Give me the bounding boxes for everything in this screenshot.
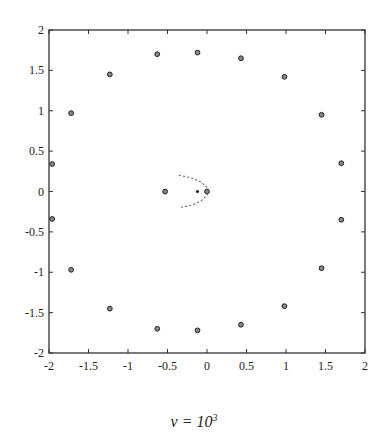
x-tick-label: 1.5 bbox=[318, 359, 333, 373]
x-tick-label: -1 bbox=[123, 359, 133, 373]
data-dot bbox=[196, 190, 199, 193]
data-point bbox=[339, 161, 344, 166]
x-tick-label: -0.5 bbox=[158, 359, 177, 373]
data-point bbox=[155, 326, 160, 331]
chart-caption: ν = 103 bbox=[0, 412, 388, 431]
x-tick-label: 0.5 bbox=[239, 359, 254, 373]
data-point bbox=[107, 306, 112, 311]
y-tick-label: 2 bbox=[38, 23, 44, 37]
y-tick-label: 1.5 bbox=[29, 63, 44, 77]
data-point bbox=[319, 112, 324, 117]
data-point bbox=[239, 56, 244, 61]
scatter-plot: -2-1.5-1-0.500.511.52-2-1.5-1-0.500.511.… bbox=[0, 0, 388, 442]
y-tick-label: 1 bbox=[38, 104, 44, 118]
data-point bbox=[50, 162, 55, 167]
y-tick-label: -1 bbox=[34, 265, 44, 279]
x-tick-label: -1.5 bbox=[79, 359, 98, 373]
data-point bbox=[69, 111, 74, 116]
x-tick-label: 1 bbox=[283, 359, 289, 373]
data-point bbox=[155, 52, 160, 57]
caption-text: ν = 10 bbox=[171, 413, 213, 430]
data-point bbox=[282, 304, 287, 309]
y-tick-label: -1.5 bbox=[25, 306, 44, 320]
data-point bbox=[195, 50, 200, 55]
y-tick-label: 0.5 bbox=[29, 144, 44, 158]
data-point bbox=[339, 217, 344, 222]
data-point bbox=[50, 217, 55, 222]
x-tick-label: 0 bbox=[204, 359, 210, 373]
data-point bbox=[163, 189, 168, 194]
data-point bbox=[107, 72, 112, 77]
data-point bbox=[239, 322, 244, 327]
y-tick-label: 0 bbox=[38, 185, 44, 199]
caption-exponent: 3 bbox=[212, 412, 217, 423]
y-tick-label: -2 bbox=[34, 346, 44, 360]
x-tick-label: -2 bbox=[44, 359, 54, 373]
data-point bbox=[319, 266, 324, 271]
data-point bbox=[69, 267, 74, 272]
y-tick-label: -0.5 bbox=[25, 225, 44, 239]
x-tick-label: 2 bbox=[362, 359, 368, 373]
data-point bbox=[282, 74, 287, 79]
data-point bbox=[195, 328, 200, 333]
